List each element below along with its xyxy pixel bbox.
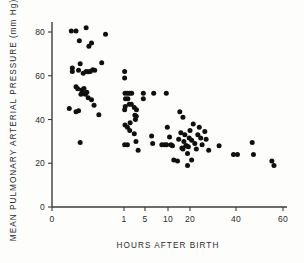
tick-marks-group [48, 32, 283, 211]
data-point [141, 96, 146, 101]
data-point [134, 114, 139, 119]
data-point [186, 144, 191, 149]
data-point [134, 107, 139, 112]
tick-labels-group: 02040608001510204060 [35, 27, 288, 224]
data-point [96, 112, 101, 117]
data-point [103, 32, 108, 37]
data-point [180, 115, 185, 120]
x-tick-label: 0 [50, 214, 55, 224]
data-point [127, 128, 132, 133]
data-point [89, 97, 94, 102]
data-point [125, 142, 130, 147]
data-point [235, 152, 240, 157]
data-point [185, 151, 190, 156]
x-tick-label: 60 [278, 214, 288, 224]
data-point [176, 137, 181, 142]
data-point [128, 120, 133, 125]
axis-titles-group: HOURS AFTER BIRTHMEAN PULMONARY ARTERIAL… [9, 0, 219, 250]
data-point [70, 69, 75, 74]
scatter-plot-figure: 02040608001510204060 HOURS AFTER BIRTHME… [0, 0, 304, 263]
y-tick-label: 60 [35, 71, 45, 81]
data-point [269, 159, 274, 164]
x-tick-label: 5 [143, 214, 148, 224]
data-point [150, 141, 155, 146]
y-tick-label: 40 [35, 115, 45, 125]
data-point [77, 38, 82, 43]
data-point [133, 139, 138, 144]
data-point [125, 96, 130, 101]
data-point [122, 75, 127, 80]
data-point [136, 148, 141, 153]
data-point [67, 106, 72, 111]
data-point [170, 143, 175, 148]
data-point [165, 125, 170, 130]
x-axis-title: HOURS AFTER BIRTH [117, 241, 220, 250]
data-point [206, 148, 211, 153]
y-tick-label: 0 [40, 202, 45, 212]
data-point [76, 108, 81, 113]
data-point [204, 137, 209, 142]
data-point [197, 125, 202, 130]
data-points-group [67, 25, 277, 168]
data-point [86, 44, 91, 49]
data-point [141, 91, 146, 96]
data-point [217, 143, 222, 148]
data-point [92, 103, 97, 108]
data-point [92, 68, 97, 73]
plot-canvas: 02040608001510204060 HOURS AFTER BIRTHME… [0, 0, 304, 263]
data-point [202, 129, 207, 134]
data-point [191, 121, 196, 126]
data-point [251, 152, 256, 157]
x-tick-label: 40 [231, 214, 241, 224]
data-point [181, 139, 186, 144]
data-point [69, 28, 74, 33]
data-point [194, 147, 199, 152]
data-point [192, 141, 197, 146]
data-point [164, 142, 169, 147]
x-tick-label: 1 [122, 214, 127, 224]
data-point [78, 140, 83, 145]
data-point [122, 69, 127, 74]
data-point [122, 107, 127, 112]
x-tick-label: 10 [163, 214, 173, 224]
data-point [198, 136, 203, 141]
data-point [250, 140, 255, 145]
data-point [99, 60, 104, 65]
data-point [84, 90, 89, 95]
data-point [182, 132, 187, 137]
data-point [185, 163, 190, 168]
data-point [189, 157, 194, 162]
data-point [76, 68, 81, 73]
y-tick-label: 80 [35, 27, 45, 37]
data-point [177, 109, 182, 114]
data-point [271, 163, 276, 168]
data-point [84, 25, 89, 30]
data-point [129, 91, 134, 96]
data-point [167, 135, 172, 140]
x-tick-label: 20 [185, 214, 195, 224]
data-point [200, 142, 205, 147]
y-tick-label: 20 [35, 158, 45, 168]
data-point [78, 61, 83, 66]
data-point [188, 128, 193, 133]
y-axis-title: MEAN PULMONARY ARTERIAL PRESSURE (mm Hg) [9, 0, 18, 241]
data-point [151, 91, 156, 96]
data-point [164, 91, 169, 96]
data-point [74, 29, 79, 34]
data-point [132, 131, 137, 136]
data-point [175, 159, 180, 164]
data-point [149, 133, 154, 138]
axes-group [52, 22, 287, 207]
